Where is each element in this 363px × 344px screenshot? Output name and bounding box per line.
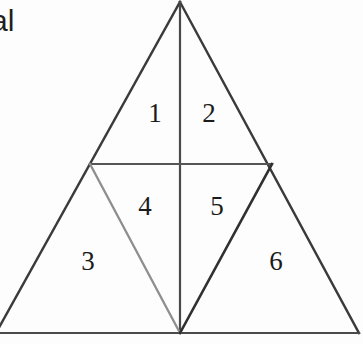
segments-group — [0, 2, 359, 333]
region-6-label: 6 — [269, 248, 283, 275]
left-diagonal — [90, 164, 180, 333]
region-3-label: 3 — [81, 248, 95, 275]
triangle-diagram: al 123456 — [0, 0, 363, 344]
right-diagonal — [180, 164, 272, 333]
region-5-label: 5 — [210, 193, 224, 220]
region-1-label: 1 — [148, 100, 162, 127]
region-2-label: 2 — [202, 100, 216, 127]
triangle-diagram-svg — [0, 0, 363, 344]
region-4-label: 4 — [138, 193, 152, 220]
